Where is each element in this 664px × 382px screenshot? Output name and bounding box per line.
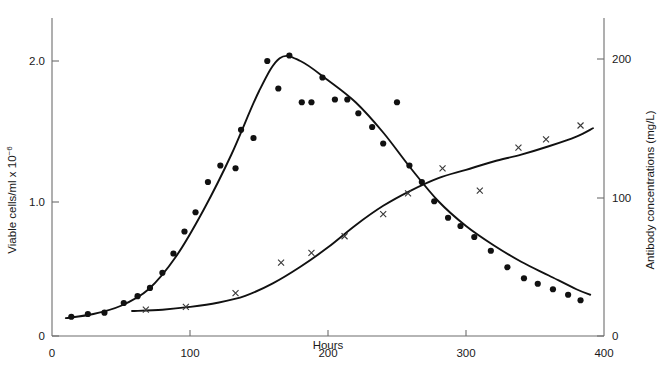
y-axis-right-title: Antibody concentrations (mg/L)	[644, 110, 656, 269]
y-axis-left-title: Viable cells/ml x 10−6	[5, 146, 18, 254]
data-point-circle	[121, 300, 127, 306]
axis-group	[52, 18, 604, 336]
data-point-circle	[369, 124, 375, 130]
data-point-circle	[205, 179, 211, 185]
data-point-cross	[380, 211, 386, 217]
data-point-circle	[101, 310, 107, 316]
data-point-circle	[217, 162, 223, 168]
y2-tick-label-0: 0	[612, 330, 618, 342]
data-point-circle	[406, 162, 412, 168]
data-point-circle	[299, 99, 305, 105]
data-point-circle	[488, 248, 494, 254]
data-point-circle	[319, 74, 325, 80]
data-point-circle	[232, 165, 238, 171]
data-point-circle	[445, 215, 451, 221]
data-point-circle	[170, 250, 176, 256]
data-point-circle	[550, 286, 556, 292]
y-axis-left-ticks: 0 1.0 2.0	[29, 55, 59, 342]
data-point-circle	[308, 99, 314, 105]
y-axis-left-title-main: Viable cells/ml x 10	[6, 155, 18, 253]
data-point-circle	[332, 96, 338, 102]
data-point-circle	[457, 223, 463, 229]
data-series-layer	[66, 52, 593, 319]
y2-tick-label-2: 200	[612, 53, 631, 65]
data-point-cross	[308, 250, 314, 256]
data-point-circle	[192, 209, 198, 215]
x-tick-label-4: 400	[594, 347, 613, 359]
data-point-circle	[471, 234, 477, 240]
data-point-circle	[264, 58, 270, 64]
data-point-circle	[147, 285, 153, 291]
y2-tick-label-1: 100	[612, 192, 631, 204]
series-2-antibody	[132, 122, 593, 312]
data-point-cross	[278, 260, 284, 266]
y-axis-left-title-exponent: −6	[5, 146, 14, 156]
series-1-viable-cells	[66, 52, 590, 319]
data-point-circle	[521, 275, 527, 281]
data-point-circle	[504, 264, 510, 270]
data-point-circle	[535, 281, 541, 287]
x-tick-label-1: 100	[180, 347, 199, 359]
data-point-circle	[68, 314, 74, 320]
data-point-cross	[440, 165, 446, 171]
data-point-circle	[85, 311, 91, 317]
data-point-circle	[431, 198, 437, 204]
data-point-circle	[134, 293, 140, 299]
data-point-cross	[477, 188, 483, 194]
data-point-circle	[565, 292, 571, 298]
x-tick-label-3: 300	[456, 347, 475, 359]
y-axis-right-ticks: 0 100 200	[597, 53, 631, 342]
data-point-circle	[286, 52, 292, 58]
data-point-circle	[159, 270, 165, 276]
chart-plot-area: 0 1.0 2.0 0 100 200 0 100 200 300 400 Ho…	[0, 0, 664, 382]
data-point-cross	[578, 122, 584, 128]
data-point-circle	[181, 228, 187, 234]
data-point-circle	[344, 96, 350, 102]
data-point-circle	[355, 110, 361, 116]
y-tick-label-1: 1.0	[29, 196, 45, 208]
y-tick-label-2: 2.0	[29, 55, 45, 67]
data-point-circle	[577, 297, 583, 303]
chart-figure: 0 1.0 2.0 0 100 200 0 100 200 300 400 Ho…	[0, 0, 664, 382]
trend-curve-1	[66, 56, 590, 318]
data-point-circle	[238, 127, 244, 133]
data-point-circle	[394, 99, 400, 105]
data-point-cross	[543, 136, 549, 142]
x-tick-label-0: 0	[49, 347, 55, 359]
data-point-cross	[233, 290, 239, 296]
data-point-circle	[380, 140, 386, 146]
data-point-cross	[515, 145, 521, 151]
trend-curve-2	[132, 128, 593, 311]
y-tick-label-0: 0	[39, 330, 45, 342]
data-point-circle	[250, 135, 256, 141]
x-axis-title: Hours	[313, 339, 344, 351]
data-point-circle	[275, 85, 281, 91]
